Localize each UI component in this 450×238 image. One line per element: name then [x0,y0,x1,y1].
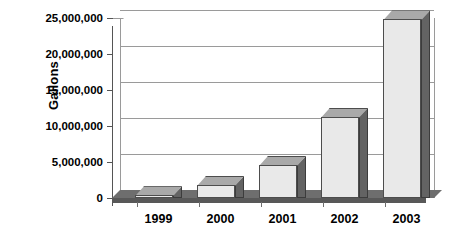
plot-right-edge [434,18,435,198]
x-axis-tick-mark [199,202,200,207]
x-axis-tick-label: 2003 [393,212,421,226]
y-axis-tick-label: 20,000,000 [25,48,103,60]
y-axis-tick-mark [107,54,113,55]
x-axis-tick-label: 2000 [207,212,235,226]
y-axis-tick-label: 0 [25,192,103,204]
x-axis-tick-label: 2002 [331,212,359,226]
x-axis-tick-label: 1999 [145,212,173,226]
y-axis-tick-mark [107,18,113,19]
y-axis-tick-label: 15,000,000 [25,84,103,96]
bar-2002[interactable] [321,108,368,198]
bar-front-face [135,195,173,198]
y-axis-tick-labels: 05,000,00010,000,00015,000,00020,000,000… [25,0,103,238]
y-axis-tick-mark [107,162,113,163]
y-axis-tick-mark [107,126,113,127]
y-axis-tick-label: 25,000,000 [25,12,103,24]
bar-2003[interactable] [383,10,430,198]
bar-side-face [359,108,368,198]
y-axis-tick-label: 10,000,000 [25,120,103,132]
x-axis-tick-mark [137,202,138,207]
y-axis-tick-mark [107,90,113,91]
bar-front-face [259,165,297,198]
bar-1999[interactable] [135,186,182,198]
y-axis-front-line [112,26,113,206]
y-axis-tick-label: 5,000,000 [25,156,103,168]
bar-front-face [197,185,235,198]
bar-2000[interactable] [197,176,244,198]
x-axis-tick-mark [323,202,324,207]
plot-area [112,10,442,210]
x-axis-tick-label: 2001 [269,212,297,226]
x-axis-tick-mark [385,202,386,207]
bar-front-face [321,117,359,198]
x-axis-tick-mark [261,202,262,207]
bar-chart: Gallons 05,000,00010,000,00015,000,00020… [0,0,450,238]
y-axis-back-line [120,18,121,198]
bar-side-face [421,10,430,198]
x-axis-tick-labels: 19992000200120022003 [112,212,442,234]
chart-floor-front [112,198,426,203]
bar-2001[interactable] [259,156,306,198]
bar-front-face [383,19,421,198]
axis-depth-connector [112,18,124,30]
